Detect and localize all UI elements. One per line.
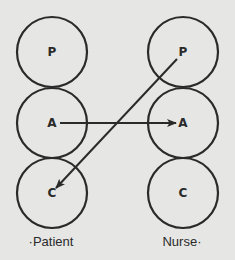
nurse-parent-state: P	[148, 17, 218, 87]
nurse-child-label: C	[179, 186, 188, 200]
patient-parent-label: P	[48, 45, 57, 59]
nurse-column-label: Nurse·	[162, 234, 201, 249]
patient-parent-state: P	[17, 17, 87, 87]
nurse-child-state: C	[148, 158, 218, 228]
patient-child-state: C	[17, 158, 87, 228]
patient-adult-label: A	[47, 116, 57, 130]
patient-child-label: C	[48, 186, 57, 200]
nurse-parent-label: P	[179, 45, 188, 59]
patient-column: P A C ·Patient	[17, 17, 87, 249]
patient-column-label: ·Patient	[29, 234, 74, 249]
ta-transaction-diagram: P A C ·Patient P A C Nurse·	[0, 0, 235, 260]
nurse-column: P A C Nurse·	[148, 17, 218, 249]
nurse-adult-label: A	[178, 116, 188, 130]
